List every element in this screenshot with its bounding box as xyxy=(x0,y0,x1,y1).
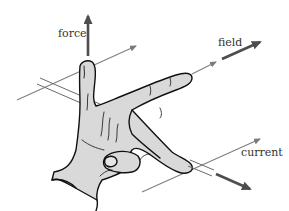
curled-fingernail xyxy=(105,156,117,166)
current-arrow xyxy=(188,160,250,189)
diagram-canvas xyxy=(0,0,289,211)
current-label: current xyxy=(241,147,283,158)
left-hand-illustration xyxy=(52,61,192,211)
field-label: field xyxy=(218,37,242,48)
fleming-left-hand-rule-diagram: force field current xyxy=(0,0,289,211)
force-label: force xyxy=(58,28,87,39)
upper-field-line-arrow xyxy=(17,46,136,100)
